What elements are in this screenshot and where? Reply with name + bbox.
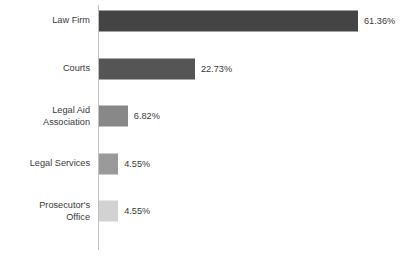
category-label: Legal Aid Association (0, 105, 90, 128)
bar-value-label: 61.36% (364, 16, 395, 27)
bar-track: 6.82% (99, 106, 160, 127)
bar-segment[interactable] (99, 11, 358, 32)
bar-value-label: 4.55% (124, 158, 150, 169)
category-label: Law Firm (0, 16, 90, 27)
category-label: Courts (0, 63, 90, 74)
bar-track: 4.55% (99, 201, 150, 222)
category-label: Prosecutor's Office (0, 200, 90, 223)
bar-row: Law Firm 61.36% (0, 0, 419, 45)
bar-value-label: 4.55% (124, 206, 150, 217)
category-label: Legal Services (0, 158, 90, 169)
bar-row: Courts 22.73% (0, 46, 419, 93)
bar-segment[interactable] (99, 201, 118, 222)
bar-segment[interactable] (99, 153, 118, 174)
bar-value-label: 6.82% (134, 111, 160, 122)
bar-row: Legal Services 4.55% (0, 141, 419, 188)
bar-track: 61.36% (99, 11, 395, 32)
bar-track: 22.73% (99, 58, 232, 79)
bar-row: Prosecutor's Office 4.55% (0, 188, 419, 235)
bar-chart: Law Firm 61.36% Courts 22.73% Legal Aid … (0, 0, 419, 263)
bar-track: 4.55% (99, 153, 150, 174)
bar-segment[interactable] (99, 58, 195, 79)
bar-value-label: 22.73% (201, 63, 232, 74)
bar-segment[interactable] (99, 106, 128, 127)
bar-row: Legal Aid Association 6.82% (0, 93, 419, 140)
